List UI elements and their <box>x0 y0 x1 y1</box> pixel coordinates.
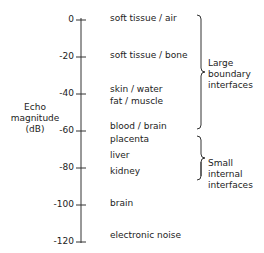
group-large-boundary-interfaces: Large boundary interfaces <box>208 58 253 91</box>
tick-label-minus40: -40 <box>44 88 74 98</box>
group-small-internal-interfaces: Small internal interfaces <box>208 158 253 191</box>
item-brain: brain <box>110 198 133 208</box>
tick-label-minus80: -80 <box>44 162 74 172</box>
item-liver: liver <box>110 150 130 160</box>
item-blood-brain: blood / brain <box>110 121 167 131</box>
tick-label-minus100: -100 <box>44 199 74 209</box>
tick-label-0: 0 <box>44 14 74 24</box>
tick-label-minus20: -20 <box>44 51 74 61</box>
tick-label-minus120: -120 <box>44 236 74 246</box>
item-fat-muscle: fat / muscle <box>110 96 163 106</box>
item-skin-water: skin / water <box>110 84 163 94</box>
item-placenta: placenta <box>110 134 149 144</box>
item-soft-tissue-air: soft tissue / air <box>110 13 177 23</box>
axis-title: Echo magnitude (dB) <box>10 102 60 135</box>
item-kidney: kidney <box>110 166 140 176</box>
item-soft-tissue-bone: soft tissue / bone <box>110 50 187 60</box>
item-electronic-noise: electronic noise <box>110 230 181 240</box>
